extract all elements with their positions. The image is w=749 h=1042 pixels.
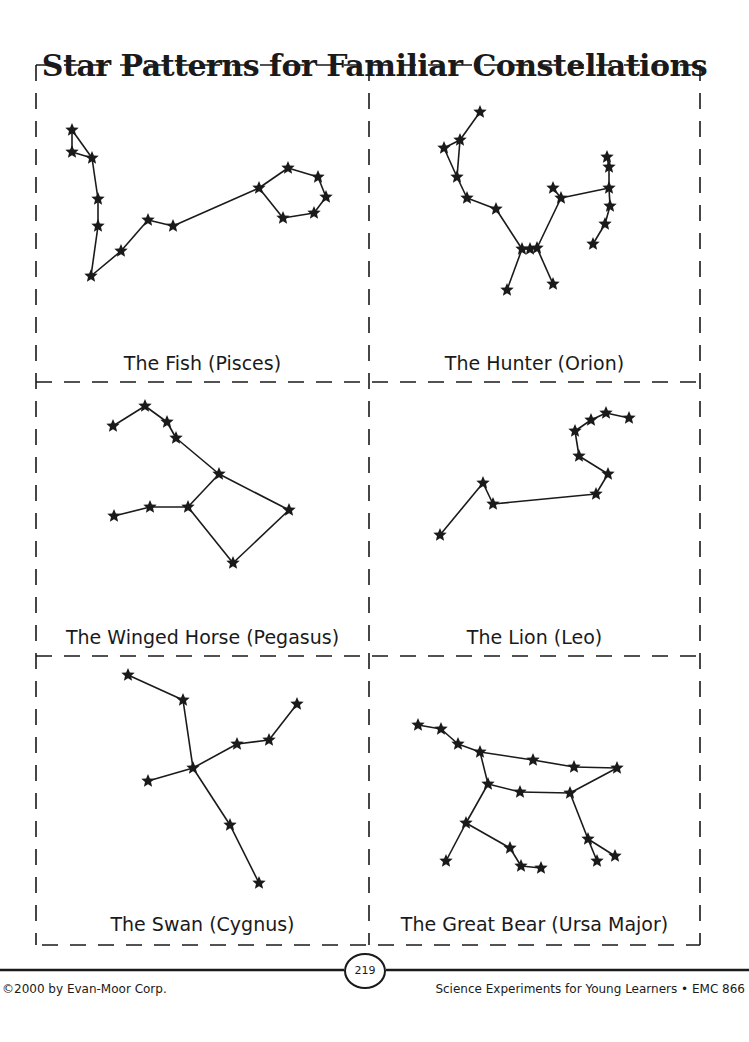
constellation-line bbox=[537, 248, 553, 284]
star-icon bbox=[460, 191, 473, 204]
star-icon bbox=[514, 859, 527, 872]
constellation-line bbox=[128, 675, 183, 700]
copyright-text: ©2000 by Evan-Moor Corp. bbox=[2, 982, 167, 996]
constellation-line bbox=[269, 704, 297, 740]
constellation-line bbox=[193, 744, 237, 768]
star-icon bbox=[439, 854, 452, 867]
constellation-ursa-major bbox=[411, 718, 623, 874]
constellation-line bbox=[493, 494, 596, 504]
star-icon bbox=[567, 760, 580, 773]
star-icon bbox=[107, 509, 120, 522]
constellation-line bbox=[480, 752, 533, 760]
constellation-line bbox=[574, 767, 617, 768]
star-icon bbox=[503, 841, 516, 854]
star-icon bbox=[599, 406, 612, 419]
constellation-line bbox=[193, 768, 230, 825]
star-icon bbox=[311, 170, 324, 183]
star-icon bbox=[230, 737, 243, 750]
constellation-line bbox=[466, 784, 488, 823]
constellation-line bbox=[533, 760, 574, 767]
constellation-line bbox=[91, 251, 121, 276]
constellation-line bbox=[446, 823, 466, 861]
star-icon bbox=[223, 818, 236, 831]
constellation-line bbox=[570, 793, 588, 839]
star-icon bbox=[141, 774, 154, 787]
star-icon bbox=[546, 277, 559, 290]
star-icon bbox=[411, 718, 424, 731]
constellation-line bbox=[173, 188, 259, 226]
constellation-sheet bbox=[0, 0, 749, 1042]
star-icon bbox=[534, 861, 547, 874]
star-icon bbox=[476, 476, 489, 489]
star-icon bbox=[121, 668, 134, 681]
star-icon bbox=[84, 269, 97, 282]
star-icon bbox=[473, 745, 486, 758]
star-icon bbox=[212, 467, 225, 480]
constellation-line bbox=[579, 456, 608, 474]
constellation-line bbox=[92, 158, 98, 199]
constellation-line bbox=[188, 507, 233, 563]
constellation-line bbox=[183, 700, 193, 768]
constellation-line bbox=[113, 406, 145, 426]
constellation-line bbox=[91, 226, 98, 276]
constellation-line bbox=[507, 249, 522, 290]
star-icon bbox=[141, 213, 154, 226]
star-icon bbox=[586, 237, 599, 250]
star-icon bbox=[160, 415, 173, 428]
constellation-pisces bbox=[65, 123, 332, 282]
star-icon bbox=[450, 170, 463, 183]
star-icon bbox=[500, 283, 513, 296]
caption-pisces: The Fish (Pisces) bbox=[36, 352, 369, 374]
constellation-line bbox=[537, 198, 561, 248]
star-icon bbox=[143, 500, 156, 513]
constellations-layer bbox=[65, 105, 635, 889]
dashed-cut-lines bbox=[36, 65, 700, 945]
star-icon bbox=[603, 199, 616, 212]
star-icon bbox=[65, 145, 78, 158]
star-icon bbox=[106, 419, 119, 432]
constellation-line bbox=[520, 792, 570, 793]
constellation-line bbox=[466, 823, 510, 848]
constellation-line bbox=[188, 474, 219, 507]
star-icon bbox=[486, 497, 499, 510]
caption-cygnus: The Swan (Cygnus) bbox=[36, 913, 369, 935]
constellation-line bbox=[230, 825, 259, 883]
star-icon bbox=[252, 181, 265, 194]
caption-pegasus: The Winged Horse (Pegasus) bbox=[36, 626, 369, 648]
constellation-line bbox=[148, 768, 193, 781]
constellation-line bbox=[233, 510, 289, 563]
star-icon bbox=[437, 141, 450, 154]
constellation-line bbox=[259, 168, 288, 188]
constellation-line bbox=[440, 483, 483, 535]
star-icon bbox=[563, 786, 576, 799]
star-icon bbox=[186, 761, 199, 774]
star-icon bbox=[319, 190, 332, 203]
constellation-line bbox=[561, 188, 609, 198]
constellation-line bbox=[496, 209, 522, 249]
caption-orion: The Hunter (Orion) bbox=[369, 352, 700, 374]
constellation-line bbox=[121, 220, 148, 251]
constellation-pegasus bbox=[106, 399, 295, 569]
star-icon bbox=[513, 785, 526, 798]
constellation-line bbox=[219, 474, 289, 510]
star-icon bbox=[526, 753, 539, 766]
star-icon bbox=[598, 217, 611, 230]
star-icon bbox=[252, 876, 265, 889]
star-icon bbox=[590, 854, 603, 867]
constellation-line bbox=[480, 752, 488, 784]
caption-leo: The Lion (Leo) bbox=[369, 626, 700, 648]
star-icon bbox=[489, 202, 502, 215]
star-icon bbox=[610, 761, 623, 774]
book-title-text: Science Experiments for Young Learners •… bbox=[435, 982, 745, 996]
constellation-line bbox=[176, 438, 219, 474]
star-icon bbox=[601, 467, 614, 480]
star-icon bbox=[473, 105, 486, 118]
constellation-orion bbox=[437, 105, 616, 296]
constellation-leo bbox=[433, 406, 635, 541]
page-number-badge: 219 bbox=[344, 953, 386, 989]
star-icon bbox=[459, 816, 472, 829]
star-icon bbox=[290, 697, 303, 710]
star-icon bbox=[622, 411, 635, 424]
star-icon bbox=[481, 777, 494, 790]
constellation-cygnus bbox=[121, 668, 303, 889]
